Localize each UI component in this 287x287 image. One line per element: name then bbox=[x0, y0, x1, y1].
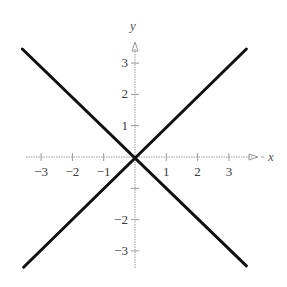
y-axis-label: y bbox=[128, 18, 136, 33]
x-tick-label: −2 bbox=[65, 164, 79, 179]
y-tick-label: 1 bbox=[122, 118, 129, 133]
x-tick-label: 1 bbox=[163, 164, 170, 179]
axes bbox=[26, 42, 264, 268]
y-tick-label: −3 bbox=[114, 243, 128, 258]
y-tick-label: 3 bbox=[122, 55, 129, 70]
x-tick-label: −1 bbox=[97, 164, 111, 179]
x-tick-label: 2 bbox=[194, 164, 201, 179]
x-axis-label: x bbox=[267, 149, 274, 164]
data-lines bbox=[22, 49, 246, 267]
y-tick-label: −2 bbox=[114, 212, 128, 227]
x-tick-label: 3 bbox=[226, 164, 233, 179]
x-axis-arrow-icon bbox=[249, 154, 258, 160]
x-tick-label: −3 bbox=[34, 164, 48, 179]
y-tick-label: 2 bbox=[122, 86, 129, 101]
graph-plot: xy−3−2−1123321−2−3 bbox=[0, 0, 287, 287]
